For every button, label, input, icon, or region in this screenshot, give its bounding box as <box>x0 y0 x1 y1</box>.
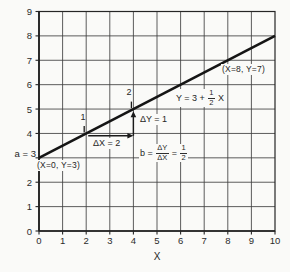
origin-point-label: (X=0, Y=3) <box>36 160 81 171</box>
x-tick-label: 3 <box>102 235 118 246</box>
point-1-label: 1 <box>78 112 88 122</box>
slope-equation: b = ΔY ΔX = 1 2 <box>139 144 188 162</box>
y-tick-label: 2 <box>14 177 32 188</box>
y-tick-label: 9 <box>14 6 32 17</box>
plot-canvas <box>0 0 290 272</box>
x-tick-label: 7 <box>196 235 212 246</box>
x-tick-label: 2 <box>78 235 94 246</box>
line-equation: Y = 3 + 1 2 X <box>175 89 225 107</box>
slope-equation-fraction-half: 1 2 <box>180 144 187 162</box>
x-tick-label: 9 <box>243 235 259 246</box>
x-axis-title: X <box>149 251 165 262</box>
line-equation-prefix: Y = 3 + <box>176 93 205 104</box>
slope-equation-prefix: b = <box>140 148 153 159</box>
line-equation-fraction: 1 2 <box>208 89 215 107</box>
y-tick-label: 6 <box>14 79 32 90</box>
y-tick-label: 5 <box>14 104 32 115</box>
x-tick-label: 4 <box>125 235 141 246</box>
slope-intercept-graph: 012345678910 012456789 a = 3 (X=0, Y=3) … <box>0 0 290 272</box>
slope-equation-fraction-dydx: ΔY ΔX <box>156 144 169 162</box>
intercept-label: a = 3 <box>4 148 37 159</box>
line-equation-suffix: X <box>218 93 224 104</box>
y-tick-label: 4 <box>14 128 32 139</box>
known-point-label: (X=8, Y=7) <box>221 64 266 75</box>
slope-equation-equals: = <box>172 148 177 159</box>
y-tick-label: 7 <box>14 55 32 66</box>
x-tick-label: 6 <box>173 235 189 246</box>
y-tick-label: 8 <box>14 30 32 41</box>
x-tick-label: 5 <box>149 235 165 246</box>
x-tick-label: 10 <box>267 235 283 246</box>
y-tick-label: 0 <box>14 226 32 237</box>
delta-y-label: ΔY = 1 <box>139 114 168 125</box>
x-tick-label: 1 <box>55 235 71 246</box>
delta-x-label: ΔX = 2 <box>92 138 121 149</box>
point-2-label: 2 <box>124 87 134 97</box>
y-tick-label: 1 <box>14 201 32 212</box>
x-tick-label: 8 <box>220 235 236 246</box>
x-tick-label: 0 <box>31 235 47 246</box>
